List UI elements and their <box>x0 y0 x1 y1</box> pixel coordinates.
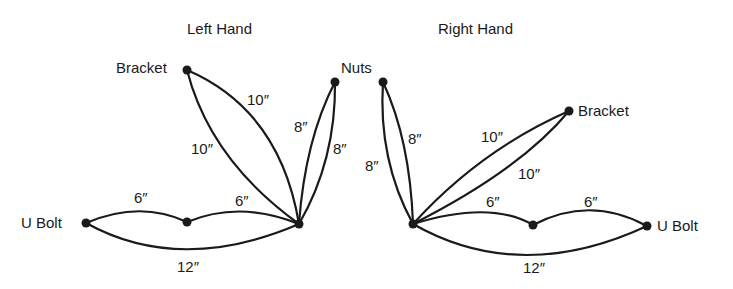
edge-right-nuts-hub-a <box>382 82 413 224</box>
node-left-bracket <box>183 66 192 75</box>
label-left-ubolt: U Bolt <box>21 215 62 230</box>
edge-left-nuts-hub-a <box>299 82 335 224</box>
label-right-bracket-lower: 10″ <box>518 166 540 181</box>
label-left-bracket-outer: 10″ <box>247 92 269 107</box>
node-left-ubolt <box>82 219 91 228</box>
left-hand-graph <box>82 66 340 250</box>
node-left-nuts <box>331 78 340 87</box>
node-left-hub <box>295 220 304 229</box>
label-right-hub-mid: 6″ <box>486 194 500 209</box>
label-left-mid-hub: 6″ <box>235 193 249 208</box>
label-right-nuts-right: 8″ <box>408 131 422 146</box>
right-hand-title: Right Hand <box>438 21 513 36</box>
label-left-nuts-left: 8″ <box>294 119 308 134</box>
edge-right-mid-ubolt <box>533 210 647 226</box>
label-left-ubolt-mid: 6″ <box>134 190 148 205</box>
edge-left-ubolt-mid <box>86 211 187 223</box>
node-right-hub <box>409 220 418 229</box>
label-nuts: Nuts <box>341 60 372 75</box>
node-right-ubolt <box>643 222 652 231</box>
label-left-ubolt-hub: 12″ <box>177 259 199 274</box>
edge-right-hub-ubolt <box>413 224 647 255</box>
label-left-bracket: Bracket <box>116 60 167 75</box>
node-left-mid <box>183 218 192 227</box>
edge-left-mid-hub <box>187 211 299 224</box>
label-right-hub-ubolt: 12″ <box>523 260 545 275</box>
label-right-bracket-upper: 10″ <box>481 129 503 144</box>
label-right-mid-ubolt: 6″ <box>584 194 598 209</box>
node-right-nuts <box>379 78 388 87</box>
diagram-canvas <box>0 0 733 289</box>
edge-left-nuts-hub-b <box>299 82 335 224</box>
node-right-bracket <box>565 107 574 116</box>
left-hand-title: Left Hand <box>187 21 252 36</box>
label-right-nuts-left: 8″ <box>365 158 379 173</box>
label-left-bracket-inner: 10″ <box>191 141 213 156</box>
node-right-mid <box>529 221 538 230</box>
label-right-bracket: Bracket <box>578 103 629 118</box>
label-right-ubolt: U Bolt <box>657 218 698 233</box>
edge-left-ubolt-hub <box>86 223 299 249</box>
label-left-nuts-right: 8″ <box>333 141 347 156</box>
